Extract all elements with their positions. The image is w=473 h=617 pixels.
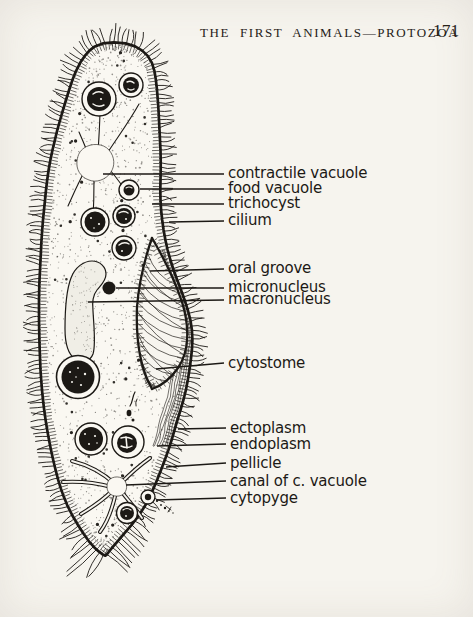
food-vacuole bbox=[119, 73, 143, 97]
page-number: 171 bbox=[433, 20, 459, 41]
label-text-trichocyst: trichocyst bbox=[228, 194, 300, 212]
leader-line-cytopyge bbox=[156, 498, 226, 500]
food-vacuole bbox=[57, 356, 100, 399]
label-text-oral-groove: oral groove bbox=[228, 259, 311, 277]
food-vacuole bbox=[117, 503, 138, 524]
food-vacuole bbox=[112, 236, 136, 260]
vacuole-lumen bbox=[107, 477, 127, 496]
label-text-cytopyge: cytopyge bbox=[230, 489, 298, 507]
label-text-cilium: cilium bbox=[228, 211, 272, 229]
label-trichocyst: trichocyst bbox=[152, 194, 300, 212]
label-text-pellicle: pellicle bbox=[230, 454, 281, 472]
running-head: THE FIRST ANIMALS—PROTOZOA bbox=[200, 25, 459, 41]
label-cilium: cilium bbox=[169, 211, 272, 229]
paramecium-diagram: contractile vacuolefood vacuoletrichocys… bbox=[0, 0, 473, 617]
food-vacuole bbox=[81, 208, 109, 236]
label-cytopyge: cytopyge bbox=[156, 489, 298, 507]
leader-line-cilium bbox=[169, 221, 224, 222]
food-vacuole bbox=[82, 82, 116, 116]
food-vacuole bbox=[119, 180, 139, 200]
label-pellicle: pellicle bbox=[166, 454, 281, 472]
label-text-cytostome: cytostome bbox=[228, 354, 305, 372]
cytopyge bbox=[141, 490, 174, 514]
label-text-macronucleus: macronucleus bbox=[228, 290, 331, 308]
food-vacuole bbox=[113, 205, 135, 227]
label-text-endoplasm: endoplasm bbox=[230, 435, 311, 453]
label-endoplasm: endoplasm bbox=[157, 435, 311, 453]
label-canal-of-c-vacuole: canal of c. vacuole bbox=[126, 472, 367, 490]
forming-food-vacuole bbox=[112, 426, 144, 458]
egested-particles bbox=[156, 500, 174, 514]
label-text-canal-of-c-vacuole: canal of c. vacuole bbox=[230, 472, 367, 490]
food-vacuole bbox=[75, 423, 107, 455]
micronucleus bbox=[103, 282, 116, 295]
vacuole-lumen bbox=[77, 144, 114, 181]
